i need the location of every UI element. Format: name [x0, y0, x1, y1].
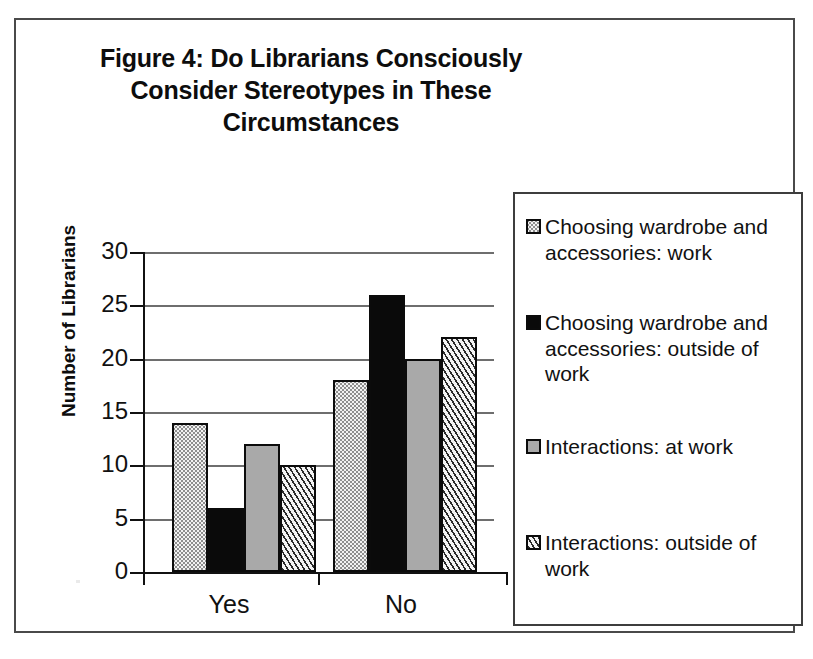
- y-tick-label-30: 30: [73, 239, 128, 263]
- x-tick-left: [143, 572, 145, 585]
- bar-yes-series3[interactable]: [244, 444, 280, 572]
- legend-entry-1[interactable]: Choosing wardrobe and accessories: work: [526, 214, 794, 265]
- bar-no-series4[interactable]: [441, 337, 477, 572]
- figure-frame: Figure 4: Do Librarians Consciously Cons…: [14, 18, 795, 633]
- y-tick-label-15: 15: [73, 399, 128, 423]
- legend-label-2: Choosing wardrobe and accessories: outsi…: [545, 310, 794, 387]
- bar-yes-series1[interactable]: [172, 423, 208, 572]
- chart-title-line-1: Figure 4: Do Librarians Consciously: [86, 42, 536, 74]
- y-tick-20: [130, 359, 143, 361]
- y-tick-15: [130, 412, 143, 414]
- chart-title-line-2: Consider Stereotypes in These: [86, 74, 536, 106]
- x-axis-line: [143, 572, 508, 574]
- x-tick-mid: [318, 572, 320, 585]
- chart-title-line-3: Circumstances: [86, 106, 536, 138]
- speckle-swatch-icon: [526, 219, 541, 234]
- bar-no-series3[interactable]: [405, 359, 441, 572]
- legend-label-4: Interactions: outside of work: [545, 530, 794, 581]
- x-tick-right: [506, 572, 508, 585]
- legend-label-3: Interactions: at work: [545, 434, 733, 460]
- legend-entry-2[interactable]: Choosing wardrobe and accessories: outsi…: [526, 310, 794, 387]
- y-tick-25: [130, 305, 143, 307]
- plot-area: 30 25 20 15 10 5 0: [143, 252, 494, 572]
- y-tick-label-25: 25: [73, 292, 128, 316]
- legend-entry-3[interactable]: Interactions: at work: [526, 434, 794, 460]
- bars-group: [143, 252, 494, 572]
- legend-label-1: Choosing wardrobe and accessories: work: [545, 214, 794, 265]
- y-tick-label-5: 5: [73, 506, 128, 530]
- y-tick-10: [130, 465, 143, 467]
- y-tick-30: [130, 252, 143, 254]
- y-tick-label-10: 10: [73, 452, 128, 476]
- y-tick-0: [130, 572, 143, 574]
- gray-swatch-icon: [526, 439, 541, 454]
- hatch-swatch-icon: [526, 535, 541, 550]
- x-category-label-no: No: [316, 590, 486, 619]
- bar-no-series1[interactable]: [333, 380, 369, 572]
- x-category-label-yes: Yes: [144, 590, 314, 619]
- bar-yes-series4[interactable]: [280, 465, 316, 572]
- y-tick-label-20: 20: [73, 346, 128, 370]
- y-tick-label-0: 0: [73, 559, 128, 583]
- bar-yes-series2[interactable]: [208, 508, 244, 572]
- legend-box: Choosing wardrobe and accessories: work …: [513, 192, 803, 626]
- chart-title: Figure 4: Do Librarians Consciously Cons…: [86, 42, 536, 138]
- bar-no-series2[interactable]: [369, 295, 405, 572]
- black-swatch-icon: [526, 315, 541, 330]
- legend-entry-4[interactable]: Interactions: outside of work: [526, 530, 794, 581]
- y-tick-5: [130, 519, 143, 521]
